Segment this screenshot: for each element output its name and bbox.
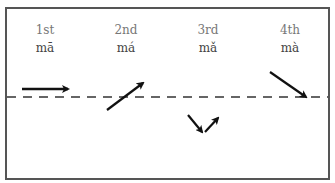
tone-contour-canvas [0,0,335,183]
falling-tone-arrow [270,72,306,97]
dipping-tone-rising-arrow [205,118,218,132]
dipping-tone-falling-arrow [188,115,202,132]
